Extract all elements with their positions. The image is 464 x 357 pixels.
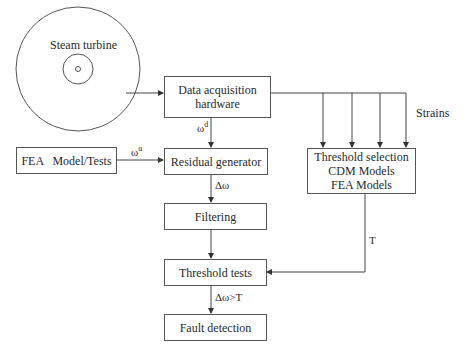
filtering-label: Filtering	[195, 210, 236, 224]
threshold-tests-label: Threshold tests	[179, 266, 252, 280]
threshold-tests-box: Threshold tests	[164, 259, 267, 286]
threshold-T-label: T	[369, 234, 376, 246]
fea-label: FEA Model/Tests	[21, 154, 111, 168]
strains-label: Strains	[416, 107, 449, 119]
ts-line2: CDM Models	[328, 164, 394, 178]
ts-line3: FEA Models	[331, 178, 392, 192]
fault-detection-box: Fault detection	[164, 314, 267, 341]
filtering-box: Filtering	[164, 203, 267, 230]
delta-omega-label: Δω	[215, 179, 229, 191]
omega-u-label: ωu	[131, 146, 142, 158]
turbine-inner-circle	[63, 54, 93, 84]
turbine-shaft	[76, 67, 81, 72]
turbine-outer-circle	[16, 7, 140, 131]
daq-line1: Data acquisition	[178, 83, 256, 97]
ts-line1: Threshold selection	[314, 150, 408, 164]
fea-model-box: FEA Model/Tests	[16, 147, 117, 174]
condition-label: Δω>T	[215, 291, 242, 303]
fault-detection-label: Fault detection	[180, 321, 252, 335]
omega-d-label: ωd	[197, 122, 208, 134]
residual-generator-box: Residual generator	[164, 148, 268, 175]
turbine-label: Steam turbine	[50, 38, 117, 53]
daq-line2: hardware	[195, 97, 240, 111]
threshold-selection-box: Threshold selection CDM Models FEA Model…	[307, 148, 416, 194]
data-acquisition-box: Data acquisition hardware	[164, 76, 271, 118]
residual-label: Residual generator	[171, 155, 261, 169]
